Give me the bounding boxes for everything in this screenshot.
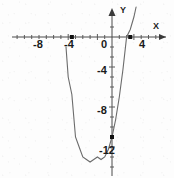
right-x-intercept-marker	[128, 35, 132, 39]
parabola-curve	[66, 7, 136, 162]
graph-canvas: X Y -8-404 -4-8-12	[0, 0, 174, 178]
y-axis-label: Y	[120, 5, 126, 15]
x-tick-label-2: 0	[101, 38, 107, 50]
x-axis-label: X	[153, 21, 159, 31]
y-tick-label-0: -4	[97, 64, 108, 76]
x-tick-label-0: -8	[33, 38, 43, 50]
y-tick-label-1: -8	[97, 104, 107, 116]
x-tick-label-3: 4	[139, 38, 146, 50]
x-tick-label-1: -4	[64, 38, 75, 50]
y-axis-arrow-icon	[109, 8, 116, 16]
x-axis-arrow-icon	[159, 34, 166, 40]
parabola-graph-figure: X Y -8-404 -4-8-12	[0, 0, 174, 178]
y-intercept-marker	[110, 135, 114, 139]
marked-points-group	[70, 35, 132, 139]
y-tick-label-2: -12	[99, 144, 115, 156]
x-tick-labels-group: -8-404	[33, 38, 146, 50]
